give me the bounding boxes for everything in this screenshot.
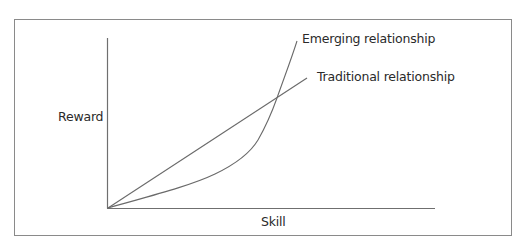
- emerging-relationship-curve: [108, 41, 297, 208]
- diagram-plot-area: [0, 0, 527, 248]
- traditional-relationship-label: Traditional relationship: [317, 71, 455, 84]
- x-axis-label: Skill: [261, 216, 286, 229]
- emerging-relationship-label: Emerging relationship: [302, 33, 435, 46]
- y-axis-label: Reward: [58, 111, 103, 124]
